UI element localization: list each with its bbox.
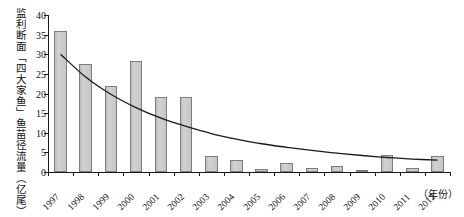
x-axis-tick-labels: 1997199819992000200120022003200420052006…: [48, 172, 450, 217]
x-tick-label: 2005: [241, 192, 262, 213]
x-tick-label: 2000: [116, 192, 137, 213]
x-tick-label: 2003: [191, 192, 212, 213]
x-tick-label: 1998: [65, 192, 86, 213]
x-tick-mark: [450, 172, 451, 176]
x-tick-label: 2006: [266, 192, 287, 213]
y-tick-mark: [44, 152, 48, 153]
x-tick-label: 2009: [342, 192, 363, 213]
y-tick-mark: [44, 74, 48, 75]
y-tick-label: 0: [24, 167, 46, 178]
y-tick-mark: [44, 133, 48, 134]
x-tick-label: 2001: [141, 192, 162, 213]
y-tick-mark: [44, 113, 48, 114]
x-tick-label: 2010: [367, 192, 388, 213]
y-tick-label: 25: [24, 68, 46, 79]
y-tick-label: 20: [24, 88, 46, 99]
x-tick-label: 1999: [91, 192, 112, 213]
trend-line-path: [61, 54, 438, 160]
y-tick-label: 30: [24, 49, 46, 60]
y-tick-label: 15: [24, 108, 46, 119]
y-tick-label: 5: [24, 147, 46, 158]
trend-line-curve: [48, 15, 450, 172]
y-axis-tick-labels: 0510152025303540: [22, 0, 46, 217]
chart-figure: 监利断面「四大家鱼」鱼苗径流量（亿尾） 0510152025303540 199…: [0, 0, 464, 217]
y-tick-mark: [44, 15, 48, 16]
x-axis-title: （年份）: [418, 186, 458, 201]
y-tick-mark: [44, 54, 48, 55]
y-tick-label: 35: [24, 29, 46, 40]
x-tick-label: 2004: [216, 192, 237, 213]
x-tick-label: 2008: [317, 192, 338, 213]
y-tick-label: 10: [24, 127, 46, 138]
plot-area: [48, 15, 450, 172]
x-tick-label: 2011: [392, 192, 412, 212]
x-tick-label: 2007: [292, 192, 313, 213]
y-tick-mark: [44, 35, 48, 36]
y-tick-label: 40: [24, 10, 46, 21]
y-tick-mark: [44, 94, 48, 95]
x-tick-label: 2002: [166, 192, 187, 213]
